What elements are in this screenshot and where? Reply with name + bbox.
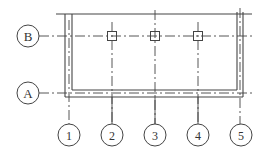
axis-label-1: 1	[66, 129, 72, 143]
axis-bubble-4: 4	[187, 124, 209, 146]
axis-bubble-3: 3	[144, 124, 166, 146]
axis-bubble-5: 5	[230, 124, 252, 146]
axis-bubble-B: B	[17, 25, 39, 47]
axis-bubble-A: A	[17, 82, 39, 104]
axis-label-5: 5	[238, 129, 244, 143]
grid-plan-drawing: B A 1 2 3 4 5	[0, 0, 266, 158]
axis-bubble-2: 2	[101, 124, 123, 146]
axis-bubble-1: 1	[58, 124, 80, 146]
axis-label-A: A	[23, 86, 33, 101]
axis-label-3: 3	[152, 129, 158, 143]
axis-label-B: B	[24, 29, 33, 44]
axis-label-2: 2	[109, 129, 115, 143]
axis-label-4: 4	[195, 129, 201, 143]
